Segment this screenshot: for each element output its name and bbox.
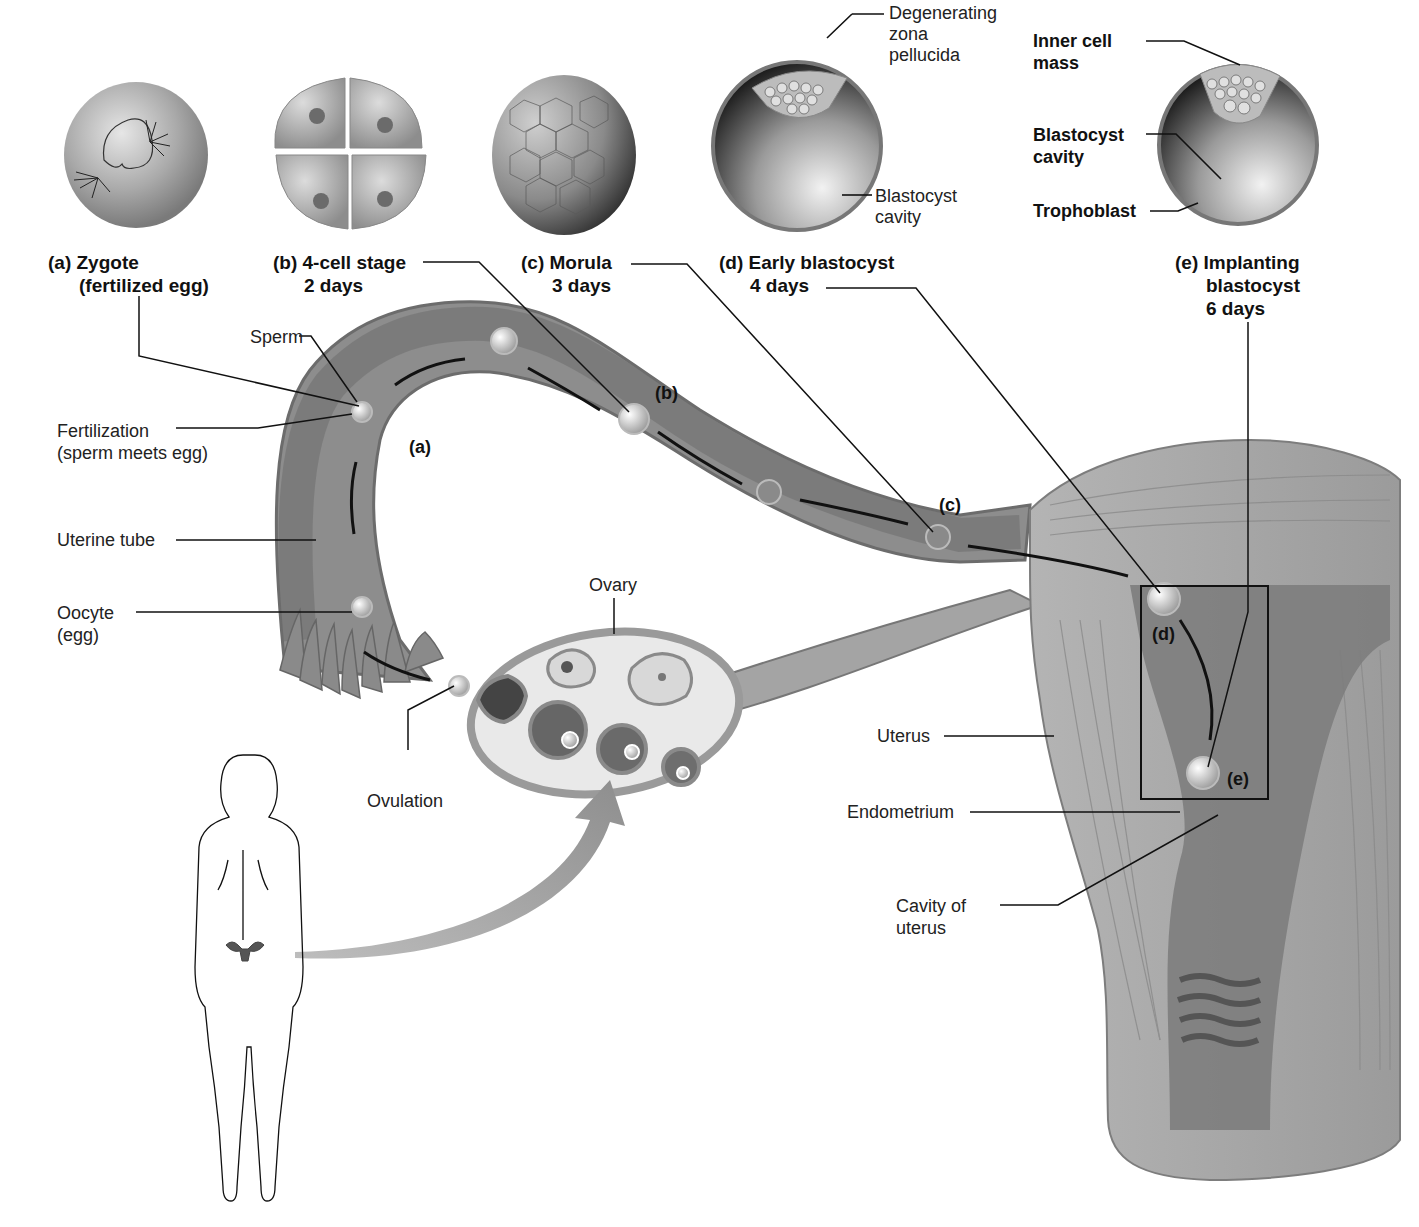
- stage-label-morula: (c) Morula 3 days: [521, 251, 612, 297]
- uterus: [1030, 440, 1400, 1180]
- four-cell-illustration: [275, 78, 426, 229]
- label-sperm: Sperm: [250, 326, 303, 348]
- label-uterine-tube: Uterine tube: [57, 529, 155, 551]
- zygote-illustration: [64, 82, 208, 228]
- label-trophoblast: Trophoblast: [1033, 200, 1136, 223]
- path-tag-c: (c): [939, 495, 961, 516]
- stage-label-zygote: (a) Zygote (fertilized egg): [48, 251, 209, 297]
- label-ovary: Ovary: [589, 574, 637, 596]
- path-tag-e: (e): [1227, 769, 1249, 790]
- label-ovulation: Ovulation: [367, 790, 443, 812]
- label-uterus: Uterus: [877, 725, 930, 747]
- morula-illustration: [492, 75, 636, 235]
- path-tag-a: (a): [409, 437, 431, 458]
- diagram-artwork: [0, 0, 1419, 1227]
- label-cavity-of-uterus: Cavity of uterus: [896, 895, 966, 939]
- implanting-blastocyst-illustration: [1159, 64, 1317, 224]
- label-degenerating-zona-pellucida: Degenerating zona pellucida: [889, 3, 997, 66]
- label-fertilization: Fertilization (sperm meets egg): [57, 420, 208, 464]
- label-early-blastocyst-cavity: Blastocyst cavity: [875, 186, 957, 228]
- early-blastocyst-illustration: [713, 62, 881, 230]
- label-endometrium: Endometrium: [847, 801, 954, 823]
- mini-uterus-icon: [226, 942, 264, 961]
- woman-figure: [195, 755, 303, 1201]
- path-tag-b: (b): [655, 383, 678, 404]
- path-tag-d: (d): [1152, 624, 1175, 645]
- stage-label-four-cell: (b) 4-cell stage 2 days: [273, 251, 406, 297]
- label-oocyte: Oocyte (egg): [57, 602, 114, 646]
- label-implanting-blastocyst-cavity: Blastocyst cavity: [1033, 124, 1124, 168]
- zoom-arrow: [295, 780, 625, 959]
- stage-label-implanting-blastocyst: (e) Implanting blastocyst 6 days: [1175, 251, 1300, 320]
- stage-label-early-blastocyst: (d) Early blastocyst 4 days: [719, 251, 894, 297]
- label-inner-cell-mass: Inner cell mass: [1033, 30, 1112, 74]
- ovary: [460, 590, 1040, 811]
